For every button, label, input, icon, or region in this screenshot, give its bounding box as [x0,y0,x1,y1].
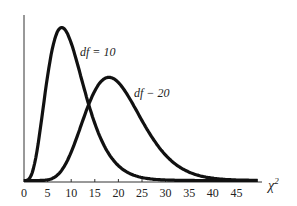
x-tick-label: 5 [45,186,51,200]
x-tick-label: 45 [230,186,242,200]
x-tick-label: 20 [112,186,124,200]
x-axis-title: χ2 [266,176,279,193]
x-tick-label: 0 [21,186,27,200]
x-tick-label: 25 [136,186,148,200]
chi-square-chart: 051015202530354045 df = 10 df − 20 χ2 [0,0,297,206]
x-tick-label: 40 [207,186,219,200]
label-df-20: df − 20 [134,86,169,100]
x-tick-label: 35 [183,186,195,200]
x-tick-label: 15 [89,186,101,200]
curve-df-10 [24,28,258,181]
label-df-10: df = 10 [80,45,115,59]
x-tick-label: 10 [65,186,77,200]
x-tick-label: 30 [160,186,172,200]
